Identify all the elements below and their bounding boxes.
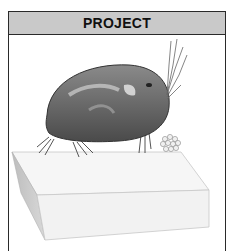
platform-block xyxy=(12,152,209,240)
project-panel: PROJECT xyxy=(8,11,226,251)
egg-cluster xyxy=(160,134,180,151)
panel-header: PROJECT xyxy=(9,12,225,35)
ostracod-body xyxy=(46,65,169,142)
panel-title: PROJECT xyxy=(83,15,151,31)
ostracod-illustration xyxy=(9,35,225,250)
ostracod-antennae xyxy=(167,39,187,99)
